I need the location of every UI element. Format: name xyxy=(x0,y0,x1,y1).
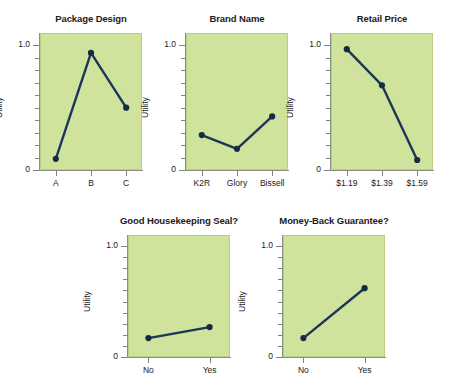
x-axis-retail-price xyxy=(330,170,434,171)
data-point xyxy=(199,132,205,138)
y-tick-mark xyxy=(123,268,127,269)
y-tick-mark xyxy=(181,133,185,134)
x-tick-mark xyxy=(210,358,211,363)
y-tick-mark xyxy=(121,246,127,247)
y-tick-mark xyxy=(181,70,185,71)
utility-series-retail-price xyxy=(0,0,458,386)
y-tick-label: 1.0 xyxy=(144,39,176,49)
plot-area-good-housekeeping-seal xyxy=(128,235,230,357)
x-tick-mark xyxy=(202,171,203,176)
data-point xyxy=(53,156,59,162)
data-point xyxy=(269,113,275,119)
x-axis-good-housekeeping-seal xyxy=(127,357,231,358)
y-tick-mark xyxy=(35,158,39,159)
y-tick-mark xyxy=(123,313,127,314)
x-tick-mark xyxy=(237,171,238,176)
data-point xyxy=(414,157,420,163)
x-tick-mark xyxy=(382,171,383,176)
y-tick-mark xyxy=(326,120,330,121)
y-tick-mark xyxy=(123,279,127,280)
y-tick-label: 0 xyxy=(144,164,176,174)
x-axis-package-design xyxy=(39,170,143,171)
y-tick-mark xyxy=(35,58,39,59)
chart-title-brand-name: Brand Name xyxy=(126,13,348,24)
utility-series-good-housekeeping-seal xyxy=(0,0,458,386)
x-tick-mark xyxy=(126,171,127,176)
y-tick-mark xyxy=(123,257,127,258)
x-tick-mark xyxy=(91,171,92,176)
data-point xyxy=(379,82,385,88)
chart-title-retail-price: Retail Price xyxy=(271,13,458,24)
x-tick-label: A xyxy=(26,178,86,188)
chart-panel-retail-price: Retail Price01.0Utility$1.19$1.39$1.59 xyxy=(0,0,458,386)
x-axis-money-back-guarantee xyxy=(282,357,386,358)
data-point xyxy=(88,50,94,56)
y-tick-mark xyxy=(326,158,330,159)
data-point xyxy=(145,335,151,341)
x-tick-label: $1.59 xyxy=(387,178,447,188)
y-tick-mark xyxy=(35,120,39,121)
x-tick-mark xyxy=(148,358,149,363)
x-tick-label: No xyxy=(118,365,178,375)
y-tick-mark xyxy=(123,302,127,303)
y-tick-mark xyxy=(179,170,185,171)
utility-series-brand-name xyxy=(0,0,458,386)
y-tick-label: 0 xyxy=(0,164,30,174)
y-tick-mark xyxy=(123,346,127,347)
y-tick-mark xyxy=(326,70,330,71)
x-tick-label: K2R xyxy=(172,178,232,188)
y-tick-mark xyxy=(121,357,127,358)
y-tick-mark xyxy=(181,108,185,109)
y-tick-mark xyxy=(179,45,185,46)
x-tick-mark xyxy=(272,171,273,176)
y-tick-mark xyxy=(123,324,127,325)
y-axis-label-brand-name: Utility xyxy=(140,97,150,118)
plot-area-brand-name xyxy=(186,33,288,170)
utility-line xyxy=(303,288,364,338)
x-tick-label: No xyxy=(273,365,333,375)
x-tick-label: $1.39 xyxy=(352,178,412,188)
plot-area-retail-price xyxy=(331,33,433,170)
y-axis-label-money-back-guarantee: Utility xyxy=(237,291,247,312)
utility-line xyxy=(347,49,417,160)
chart-title-good-housekeeping-seal: Good Housekeeping Seal? xyxy=(68,215,290,226)
y-tick-label: 1.0 xyxy=(86,240,118,250)
y-tick-mark xyxy=(181,158,185,159)
y-tick-mark xyxy=(278,346,282,347)
conjoint-utility-figure: Package Design01.0UtilityABCBrand Name01… xyxy=(0,0,458,386)
plot-area-package-design xyxy=(40,33,142,170)
y-tick-mark xyxy=(278,290,282,291)
x-tick-mark xyxy=(56,171,57,176)
y-tick-mark xyxy=(276,357,282,358)
y-tick-mark xyxy=(278,257,282,258)
utility-line xyxy=(56,53,126,159)
data-point xyxy=(300,335,306,341)
x-tick-label: Bissell xyxy=(242,178,302,188)
x-tick-mark xyxy=(365,358,366,363)
y-tick-mark xyxy=(181,120,185,121)
y-tick-mark xyxy=(326,145,330,146)
y-tick-mark xyxy=(324,45,330,46)
y-tick-mark xyxy=(35,108,39,109)
y-axis-label-retail-price: Utility xyxy=(285,97,295,118)
x-tick-mark xyxy=(347,171,348,176)
y-tick-mark xyxy=(276,246,282,247)
y-tick-mark xyxy=(35,83,39,84)
x-tick-label: Yes xyxy=(335,365,395,375)
chart-panel-package-design: Package Design01.0UtilityABC xyxy=(0,0,458,386)
y-tick-label: 0 xyxy=(241,351,273,361)
y-tick-mark xyxy=(326,83,330,84)
utility-line xyxy=(148,327,209,338)
data-point xyxy=(344,46,350,52)
chart-panel-money-back-guarantee: Money-Back Guarantee?01.0UtilityNoYes xyxy=(0,0,458,386)
y-tick-mark xyxy=(326,58,330,59)
y-tick-mark xyxy=(123,335,127,336)
x-tick-label: B xyxy=(61,178,121,188)
y-tick-mark xyxy=(278,302,282,303)
y-tick-label: 0 xyxy=(289,164,321,174)
y-tick-mark xyxy=(123,290,127,291)
y-tick-mark xyxy=(278,268,282,269)
chart-panel-brand-name: Brand Name01.0UtilityK2RGloryBissell xyxy=(0,0,458,386)
y-tick-mark xyxy=(181,83,185,84)
data-point xyxy=(123,105,129,111)
